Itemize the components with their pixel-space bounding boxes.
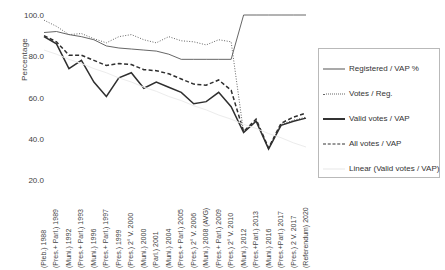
series-line	[44, 36, 306, 148]
x-axis-tick-label: (Muni.) 2008 (AVG)	[202, 208, 209, 268]
legend-item[interactable]: All votes / VAP	[323, 131, 435, 156]
x-axis-tick-label: (Pres.+ Parl.) 1997	[102, 209, 109, 268]
y-axis-tick-label: 20.0	[2, 176, 44, 185]
legend-item[interactable]: Linear (Valid votes / VAP)	[323, 156, 435, 181]
chart-legend: Registered / VAP %Votes / Reg.Valid vote…	[318, 48, 440, 178]
series-line	[44, 37, 306, 149]
legend-item-label: Valid votes / VAP	[349, 114, 410, 123]
x-axis-tick-label: (Muni.) 1996	[90, 229, 97, 268]
series-line	[44, 20, 306, 148]
legend-item[interactable]: Valid votes / VAP	[323, 106, 435, 131]
x-axis-tick-label: (Pres.) 2° V. 2006	[190, 213, 197, 268]
x-axis-tick-label: (Pres.) 2 V. 2017	[290, 216, 297, 268]
x-axis-tick-label: (Referendum) 2020	[302, 207, 309, 268]
dashed-line-icon	[323, 139, 345, 149]
x-axis-tick-label: (Pres.+ Parl.) 1989	[52, 209, 59, 268]
series-line	[44, 15, 306, 59]
x-axis-tick-label: (Pres.) 2° V. 2000	[127, 213, 134, 268]
legend-item[interactable]: Registered / VAP %	[323, 56, 435, 81]
x-axis-ticks: (Pleb.) 1988(Pres.+ Parl.) 1989(Muni.) 1…	[0, 190, 445, 270]
y-axis-ticks: 100.080.060.040.020.0	[0, 0, 44, 190]
legend-item-label: Votes / Reg.	[349, 89, 393, 98]
x-axis-tick-label: (Muni.) 2016	[265, 229, 272, 268]
x-axis-tick-label: (Pres.+Parl.) 2013	[252, 211, 259, 268]
legend-item-label: Registered / VAP %	[349, 64, 419, 73]
x-axis-tick-label: (Pres.+Parl.) 2017	[277, 211, 284, 268]
x-axis-tick-label: (Pres.+ Parl.) 2005	[177, 209, 184, 268]
x-axis-tick-label: (Pres.+ Parl.) 2009	[215, 209, 222, 268]
y-axis-tick-label: 60.0	[2, 93, 44, 102]
x-axis-tick-label: (Muni.) 1992	[65, 229, 72, 268]
y-axis-tick-label: 100.0	[2, 11, 44, 20]
x-axis-tick-label: (Pleb.) 1988	[40, 230, 47, 268]
x-axis-tick-label: (Pres.) 2° V. 2010	[227, 213, 234, 268]
y-axis-tick-label: 40.0	[2, 134, 44, 143]
series-line	[44, 50, 306, 147]
x-axis-tick-label: (Parl.) 2001	[152, 231, 159, 268]
legend-item-label: Linear (Valid votes / VAP)	[349, 164, 439, 173]
x-axis-tick-label: (Pres.+ Parl.) 1993	[77, 209, 84, 268]
y-axis-tick-label: 80.0	[2, 52, 44, 61]
faint-line-icon	[323, 164, 345, 174]
x-axis-tick-label: (Pres.) 1999	[115, 229, 122, 268]
dotted-line-icon	[323, 89, 345, 99]
x-axis-tick-label: (Muni.) 2000	[140, 229, 147, 268]
line-chart: Percentage 100.080.060.040.020.0 (Pleb.)…	[0, 0, 445, 270]
thick-line-icon	[323, 114, 345, 124]
x-axis-tick-label: (Muni.) 2004	[165, 229, 172, 268]
legend-item[interactable]: Votes / Reg.	[323, 81, 435, 106]
thin-line-icon	[323, 64, 345, 74]
x-axis-tick-label: (Muni.) 2012	[240, 229, 247, 268]
legend-item-label: All votes / VAP	[349, 139, 401, 148]
